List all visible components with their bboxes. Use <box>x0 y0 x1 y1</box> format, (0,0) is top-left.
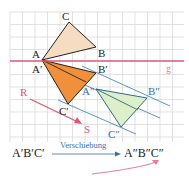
caption-arrow <box>52 152 121 157</box>
caption-arrow-label: Verschiebung <box>60 140 107 150</box>
grid <box>10 12 184 142</box>
label-b-double-prime: B″ <box>148 85 160 97</box>
label-a: A <box>32 48 40 60</box>
label-c: C <box>62 10 69 22</box>
geometry-diagram: C B A A′ B′ C′ A″ B″ C″ R S g A′B′C′ Ver… <box>0 0 189 176</box>
label-s: S <box>84 123 90 135</box>
caption-right: A″B″C″ <box>124 146 164 160</box>
vector-rs <box>30 99 82 124</box>
label-r: R <box>20 86 28 98</box>
label-c-double-prime: C″ <box>108 128 120 140</box>
label-b-prime: B′ <box>98 63 108 75</box>
label-a-prime: A′ <box>32 63 42 75</box>
label-g: g <box>166 63 171 74</box>
triangle-a2b2c2 <box>96 89 147 127</box>
label-a-double-prime: A″ <box>82 85 95 97</box>
caption-left: A′B′C′ <box>12 146 45 160</box>
triangle-abc <box>42 22 96 60</box>
label-b: B <box>98 47 105 59</box>
triangle-a1b1c1 <box>42 60 96 104</box>
curved-arrow <box>92 160 159 174</box>
label-c-prime: C′ <box>59 105 69 117</box>
